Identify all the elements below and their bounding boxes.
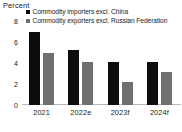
bar[interactable]	[108, 62, 119, 105]
y-axis-tick-label: 0	[14, 102, 18, 109]
x-axis-tick-label: 2024f	[140, 108, 179, 117]
y-axis-tick-label: 8	[14, 18, 18, 25]
y-axis-tick-label: 6	[14, 39, 18, 46]
y-axis-tick-label: 4	[14, 60, 18, 67]
bar-group	[140, 21, 179, 105]
bar[interactable]	[29, 32, 40, 106]
chart-container: Percent Commodity importers excl. ChinaC…	[0, 0, 182, 132]
y-axis-tick-label: 2	[14, 81, 18, 88]
bar[interactable]	[68, 50, 79, 105]
x-axis-tick-labels: 20212022e2023f2024f	[22, 108, 179, 117]
bar-group	[61, 21, 100, 105]
bar[interactable]	[122, 82, 133, 105]
legend-item[interactable]: Commodity importers excl. China	[26, 8, 167, 16]
bar-group	[101, 21, 140, 105]
x-axis-tick-label: 2022e	[61, 108, 100, 117]
bar-group	[22, 21, 61, 105]
x-axis-tick-label: 2021	[22, 108, 61, 117]
bar[interactable]	[147, 62, 158, 105]
bar-groups	[22, 21, 179, 105]
x-axis-tick-label: 2023f	[101, 108, 140, 117]
legend-item-label: Commodity importers excl. China	[33, 8, 129, 16]
bar[interactable]	[161, 72, 172, 105]
plot-area: 02468	[22, 21, 179, 105]
bar[interactable]	[82, 62, 93, 105]
legend-swatch-icon	[26, 10, 30, 14]
bar[interactable]	[43, 53, 54, 106]
